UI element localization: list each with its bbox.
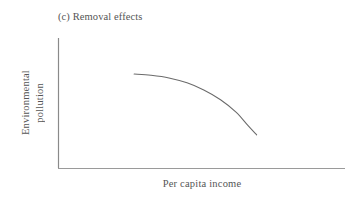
data-series-removal-effects bbox=[134, 74, 257, 135]
y-axis-label: Environmental pollution bbox=[0, 40, 52, 166]
y-axis-label-line-2: pollution bbox=[33, 83, 46, 123]
figure-panel: (c) Removal effects Environmental pollut… bbox=[0, 0, 361, 203]
plot-area bbox=[0, 0, 361, 203]
y-axis-label-line-1: Environmental bbox=[19, 70, 32, 135]
x-axis-label: Per capita income bbox=[58, 177, 346, 190]
